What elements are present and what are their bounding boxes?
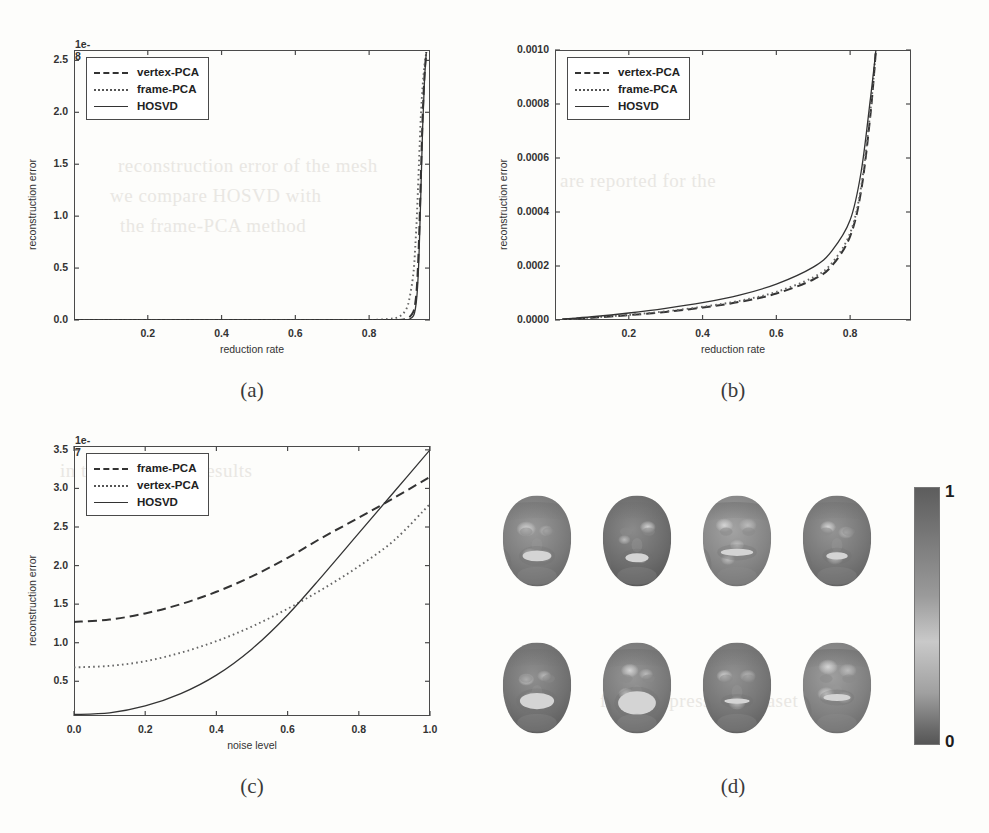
y-tick-label: 0.5 [4, 674, 68, 686]
x-tick-label: 0.0 [44, 723, 104, 735]
face-heatmap [592, 617, 682, 760]
face-heatmap [692, 617, 782, 760]
x-tick-label: 0.6 [258, 723, 318, 735]
legend-row: frame-PCA [94, 459, 199, 476]
x-tick-label: 0.4 [186, 723, 246, 735]
figure-page: reconstruction error of the mesh we comp… [0, 0, 989, 833]
face-heatmap-image [692, 617, 782, 760]
face-heatmap-image [792, 470, 882, 613]
x-tick-label: 0.8 [329, 723, 389, 735]
x-axis-label-c: noise level [174, 739, 330, 751]
face-heatmap [792, 617, 882, 760]
dashed-line-icon [94, 462, 128, 474]
face-heatmap [492, 470, 582, 613]
face-heatmap-image [592, 470, 682, 613]
face-heatmap-image [492, 617, 582, 760]
face-heatmap [492, 617, 582, 760]
subfigure-caption-c: (c) [212, 774, 292, 799]
solid-line-icon [94, 496, 128, 508]
dotted-line-icon [94, 479, 128, 491]
y-tick-label: 1.0 [4, 636, 68, 648]
colorbar-min-label: 0 [945, 732, 954, 752]
x-tick-label: 1.0 [400, 723, 460, 735]
face-heatmap [792, 470, 882, 613]
face-heatmap-image [792, 617, 882, 760]
face-heatmap [592, 470, 682, 613]
series-line-vertex-PCA [74, 504, 430, 668]
x-tick-label: 0.2 [115, 723, 175, 735]
y-tick-label: 2.0 [4, 559, 68, 571]
legend-row: vertex-PCA [94, 476, 199, 493]
y-tick-label: 3.0 [4, 481, 68, 493]
legend-row: HOSVD [94, 493, 199, 510]
colorbar [914, 487, 940, 745]
legend-label: vertex-PCA [137, 479, 199, 491]
y-tick-label: 3.5 [4, 443, 68, 455]
face-heatmap-image [592, 617, 682, 760]
colorbar-max-label: 1 [945, 482, 954, 502]
face-heatmap-grid [492, 470, 882, 760]
face-heatmap-image [692, 470, 782, 613]
legend-c: frame-PCA vertex-PCA HOSVD [86, 453, 209, 516]
face-heatmap [692, 470, 782, 613]
y-tick-label: 2.5 [4, 520, 68, 532]
y-tick-label: 1.5 [4, 597, 68, 609]
legend-label: frame-PCA [137, 462, 196, 474]
face-heatmap-image [492, 470, 582, 613]
legend-label: HOSVD [137, 496, 178, 508]
subfigure-caption-d: (d) [693, 774, 773, 799]
